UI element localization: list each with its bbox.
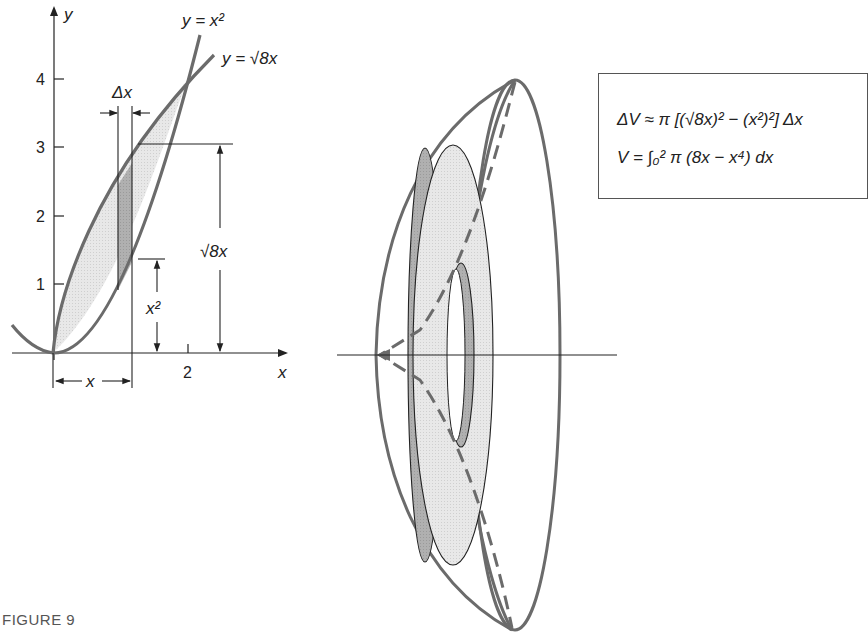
y-tick-3: 3 (36, 139, 45, 156)
figure-caption: FIGURE 9 (2, 611, 75, 628)
solid-of-revolution (337, 80, 617, 630)
y-tick-4: 4 (36, 71, 45, 88)
formula-box: ΔV ≈ π [(√8x)² − (x²)²] Δx V = ∫₀² π (8x… (598, 73, 868, 199)
x-axis-label: x (277, 363, 287, 382)
formula-delta-v: ΔV ≈ π [(√8x)² − (x²)²] Δx (617, 110, 803, 130)
y-axis-label: y (63, 5, 74, 24)
delta-x-label: Δx (111, 83, 132, 102)
x-distance-label: x (85, 372, 95, 391)
y-tick-1: 1 (36, 276, 45, 293)
y-tick-2: 2 (36, 208, 45, 225)
label-y-equals-sqrt-8x: y = √8x (221, 49, 278, 68)
outer-radius-label: √8x (200, 242, 228, 261)
inner-radius-label: x² (145, 299, 162, 318)
left-graph: 1 2 3 4 2 y x y = x² y = √8x Δx √8x x² (12, 5, 288, 391)
formula-volume-integral: V = ∫₀² π (8x − x⁴) dx (617, 148, 773, 168)
x-tick-2: 2 (183, 364, 192, 381)
x-axis-arrow-icon (278, 349, 288, 357)
y-axis-arrow-icon (50, 6, 58, 16)
label-y-equals-x-squared: y = x² (181, 11, 225, 30)
